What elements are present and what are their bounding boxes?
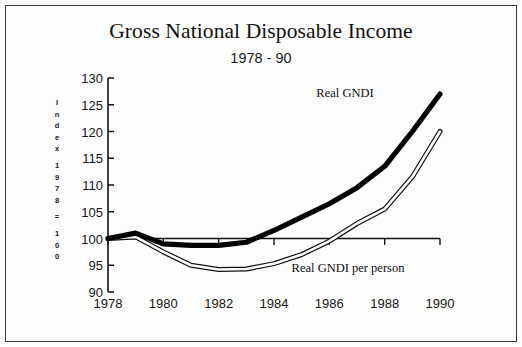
series-label-real-gndi: Real GNDI [316, 86, 373, 100]
x-tick-label: 1980 [149, 296, 178, 311]
y-tick-labels: 130 125 120 115 110 105 100 95 90 [81, 71, 103, 300]
y-axis-title-char: 7 [55, 184, 59, 193]
y-tick-label: 115 [82, 151, 103, 166]
plot-area: 130 125 120 115 110 105 100 95 90 I n d … [0, 0, 522, 347]
y-tick-label: 105 [81, 205, 103, 220]
y-tick-marks [108, 78, 114, 292]
y-axis-title-char: n [55, 110, 60, 119]
chart-figure: Gross National Disposable Income 1978 - … [0, 0, 522, 347]
y-axis-title-char: 8 [55, 196, 59, 205]
y-axis-title-char: 1 [55, 229, 59, 238]
y-axis-title-char: 1 [55, 161, 59, 170]
y-axis-title-char: = [55, 212, 60, 221]
series-label-real-gndi-per-person: Real GNDI per person [292, 261, 406, 275]
y-axis-title-char: 0 [55, 252, 59, 261]
y-axis-title-char: d [55, 121, 60, 130]
y-axis-title-char: 9 [55, 173, 59, 182]
x-tick-label: 1978 [94, 296, 123, 311]
x-tick-label: 1988 [370, 296, 399, 311]
y-axis-title-char: I [56, 98, 58, 107]
series-line-real-gndi [108, 94, 440, 245]
y-tick-label: 95 [89, 258, 103, 273]
x-tick-label: 1984 [260, 296, 289, 311]
y-axis-title-char: x [55, 144, 60, 153]
x-tick-label: 1990 [426, 296, 455, 311]
y-tick-label: 100 [81, 232, 103, 247]
x-tick-labels: 1978 1980 1982 1984 1986 1988 1990 [94, 296, 455, 311]
y-axis-title-char: e [55, 133, 59, 142]
x-tick-label: 1986 [315, 296, 344, 311]
y-tick-label: 125 [81, 98, 103, 113]
x-tick-label: 1982 [204, 296, 233, 311]
y-axis-title: I n d e x 1 9 7 8 = 1 0 0 [55, 98, 60, 261]
y-tick-label: 110 [82, 178, 103, 193]
y-tick-label: 120 [81, 125, 103, 140]
y-tick-label: 130 [81, 71, 103, 86]
y-axis-title-char: 0 [55, 241, 59, 250]
